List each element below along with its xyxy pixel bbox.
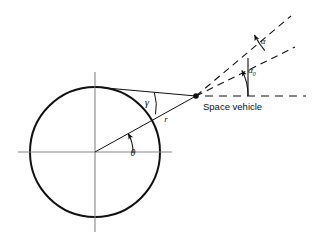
gamma-label: γ [145,96,150,108]
radius-label: r [164,114,168,124]
alpha-zero-angle-arc [242,71,248,96]
orbital-geometry-diagram: γ r θ α α0 Space vehicle [0,0,317,241]
theta-label: θ [131,147,136,158]
alpha-label: α [261,36,266,46]
alpha-zero-subscript: 0 [253,71,256,77]
diagram-canvas: γ r θ α α0 Space vehicle [0,0,317,241]
space-vehicle-label: Space vehicle [203,101,262,112]
chord-to-circle-top-line [95,87,196,96]
gamma-angle-arc [154,93,156,115]
space-vehicle-dot [193,93,199,99]
